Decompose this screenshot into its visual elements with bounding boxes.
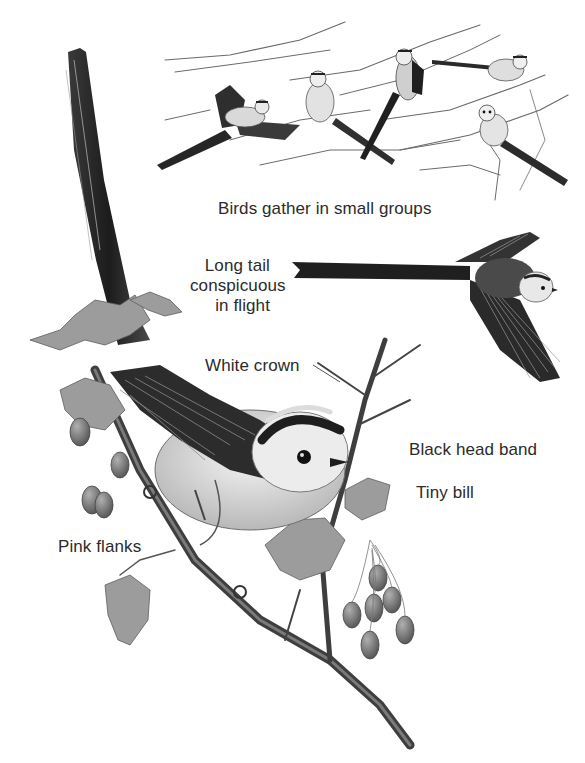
flock-bird-4 <box>432 55 527 81</box>
label-long-tail-line2: conspicuous <box>190 276 270 296</box>
long-tailed-tit-illustration <box>0 0 585 763</box>
label-pink-flanks: Pink flanks <box>58 537 141 557</box>
flock-bird-5 <box>479 105 568 186</box>
label-birds-gather: Birds gather in small groups <box>218 199 432 219</box>
flight-bird <box>292 232 560 382</box>
label-black-head-band: Black head band <box>409 440 537 460</box>
leader-lines <box>313 365 340 382</box>
label-tiny-bill: Tiny bill <box>416 483 474 503</box>
main-bird-body <box>110 365 348 545</box>
flock-bird-1 <box>157 85 300 170</box>
label-white-crown: White crown <box>205 356 300 376</box>
label-long-tail-line3: in flight <box>190 296 270 316</box>
label-long-tail: Long tail conspicuous in flight <box>190 256 270 316</box>
label-long-tail-line1: Long tail <box>190 256 270 276</box>
